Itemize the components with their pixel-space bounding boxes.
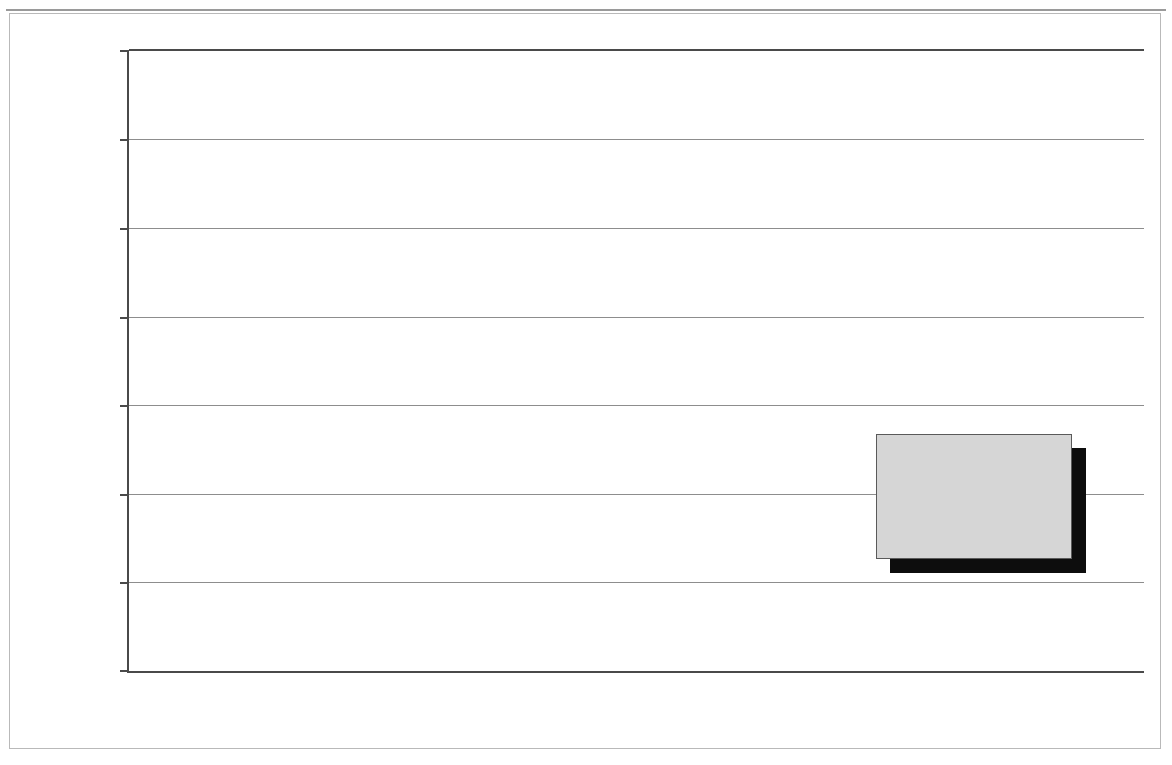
callout-box — [876, 434, 1072, 559]
exhibit-title — [8, 0, 22, 9]
ytick-mark-110 — [120, 50, 129, 52]
title-rule — [6, 9, 1166, 11]
ytick-mark-80 — [120, 317, 129, 319]
plot-area — [127, 51, 1144, 673]
figure-page — [0, 0, 1172, 765]
ytick-mark-60 — [120, 494, 129, 496]
ytick-mark-90 — [120, 228, 129, 230]
ytick-mark-70 — [120, 405, 129, 407]
ytick-mark-100 — [120, 139, 129, 141]
figure-frame — [9, 13, 1161, 749]
exports-line-series — [129, 51, 1144, 671]
ytick-mark-50 — [120, 582, 129, 584]
ytick-mark-40 — [120, 670, 129, 672]
